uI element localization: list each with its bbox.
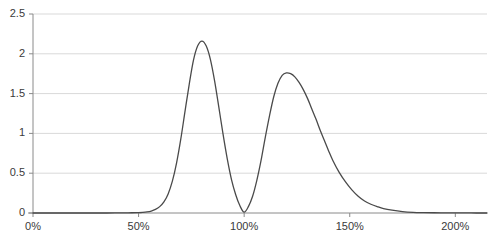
x-tick-label: 50% (109, 221, 169, 232)
y-tick-label: 1 (0, 127, 25, 138)
x-tick-label: 100% (214, 221, 274, 232)
y-tick-label: 1.5 (0, 88, 25, 99)
axis-lines (28, 14, 487, 213)
y-tick-label: 0 (0, 207, 25, 218)
gridlines (33, 14, 487, 173)
tick-marks (29, 14, 455, 217)
density-curve-series (33, 41, 487, 213)
y-tick-label: 0.5 (0, 167, 25, 178)
x-tick-label: 0% (3, 221, 63, 232)
x-tick-label: 150% (320, 221, 380, 232)
chart-container: 00.511.522.5 0%50%100%150%200% (0, 0, 497, 244)
chart-plot-area (0, 0, 497, 244)
x-tick-label: 200% (425, 221, 485, 232)
y-tick-label: 2 (0, 48, 25, 59)
y-tick-label: 2.5 (0, 8, 25, 19)
